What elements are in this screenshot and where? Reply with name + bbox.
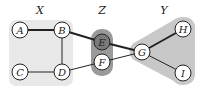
node-e: E: [94, 34, 110, 50]
node-label: G: [138, 47, 146, 58]
node-label: C: [16, 67, 24, 78]
node-a: A: [12, 22, 28, 38]
region-label-y: Y: [160, 4, 169, 17]
node-c: C: [12, 64, 28, 80]
node-f: F: [94, 54, 110, 70]
graph-diagram: X Z Y ABCDEFGHI: [0, 0, 209, 91]
node-h: H: [175, 21, 191, 37]
node-label: E: [97, 37, 106, 48]
regions: [9, 17, 195, 86]
node-label: B: [57, 25, 65, 36]
region-label-x: X: [35, 4, 45, 17]
node-b: B: [54, 22, 70, 38]
node-label: H: [178, 24, 188, 35]
node-label: F: [98, 57, 107, 68]
region-label-z: Z: [97, 4, 106, 17]
node-d: D: [54, 64, 70, 80]
node-label: A: [15, 25, 23, 36]
node-i: I: [175, 65, 191, 81]
node-label: D: [57, 67, 66, 78]
node-g: G: [134, 44, 150, 60]
